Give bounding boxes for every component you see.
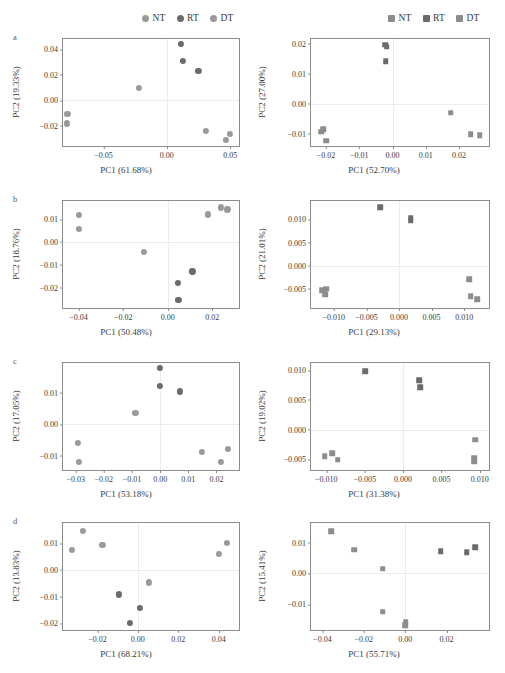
- data-point-rt: [363, 369, 369, 375]
- y-axis-tick: 0.01: [292, 69, 311, 78]
- y-axis-tick: −0.02: [39, 283, 63, 292]
- x-axis-tick: 0.01: [181, 470, 195, 484]
- y-axis-tick: 0.02: [44, 70, 63, 79]
- data-point-nt: [76, 212, 82, 218]
- gridline-horizontal: [311, 573, 489, 574]
- gridline-vertical: [399, 201, 400, 308]
- data-point-nt: [321, 127, 327, 133]
- data-point-rt: [195, 67, 201, 73]
- x-axis-tick: −0.02: [355, 630, 374, 644]
- data-point-dt: [227, 130, 233, 136]
- x-axis-tick: 0.010: [455, 308, 473, 322]
- data-point-rt: [383, 59, 389, 65]
- x-axis-label: PC1 (55.71%): [248, 649, 500, 659]
- x-axis-tick: 0.01: [419, 146, 433, 160]
- data-point-dt: [223, 137, 229, 143]
- data-point-nt: [323, 138, 329, 144]
- gridline-vertical: [160, 363, 161, 470]
- legend-item-nt: NT: [142, 14, 166, 24]
- gridline-vertical: [405, 523, 406, 630]
- data-point-rt: [178, 41, 184, 47]
- x-axis-tick: 0.00: [131, 630, 145, 644]
- x-axis-tick: −0.04: [313, 630, 332, 644]
- x-axis-tick: 0.02: [440, 630, 454, 644]
- legend-squares: NTRTDT: [388, 14, 480, 24]
- pca-panel-c-right: −0.0050.0000.0050.010−0.010−0.0050.0000.…: [252, 352, 504, 512]
- y-axis-tick: 0.04: [44, 45, 63, 54]
- legend-label: RT: [187, 14, 199, 24]
- x-axis-tick: 0.005: [423, 308, 441, 322]
- data-point-dt: [199, 449, 205, 455]
- data-point-rt: [175, 297, 181, 303]
- x-axis-tick: −0.02: [88, 630, 107, 644]
- gridline-vertical: [167, 39, 168, 146]
- y-axis-tick: 0.000: [288, 261, 311, 270]
- data-point-nt: [323, 291, 329, 297]
- legend-label: NT: [153, 14, 166, 24]
- x-axis-tick: 0.02: [171, 630, 185, 644]
- data-point-dt: [474, 296, 480, 302]
- data-point-rt: [417, 385, 423, 391]
- data-point-rt: [177, 388, 183, 394]
- y-axis-tick: 0.000: [288, 425, 311, 434]
- y-axis-label: PC2 (19.02%): [257, 390, 267, 442]
- data-point-nt: [335, 457, 341, 463]
- data-point-rt: [116, 591, 122, 597]
- plot-area: −0.010.000.01−0.03−0.02−0.010.000.010.02: [62, 362, 240, 471]
- x-axis-tick: 0.02: [209, 470, 223, 484]
- y-axis-tick: 0.01: [44, 215, 63, 224]
- y-axis-tick: −0.01: [287, 129, 311, 138]
- gridline-vertical: [393, 39, 394, 146]
- circle-marker: [142, 15, 149, 22]
- y-axis-tick: 0.00: [44, 420, 63, 429]
- legend-item-dt: DT: [456, 14, 480, 24]
- data-point-dt: [218, 458, 224, 464]
- gridline-vertical: [403, 363, 404, 470]
- circle-marker: [177, 15, 184, 22]
- y-axis-tick: 0.010: [288, 215, 311, 224]
- gridline-horizontal: [311, 430, 489, 431]
- pca-panel-d-right: −0.010.000.01−0.04−0.020.000.02PC1 (55.7…: [252, 512, 504, 672]
- data-point-dt: [477, 133, 483, 139]
- data-point-dt: [468, 131, 474, 137]
- y-axis-tick: −0.01: [39, 592, 63, 601]
- plot-area: −0.010.000.010.02−0.02−0.010.000.010.02: [310, 38, 490, 147]
- y-axis-label: PC2 (15.41%): [257, 550, 267, 602]
- x-axis-tick: −0.01: [123, 470, 142, 484]
- data-point-nt: [69, 547, 75, 553]
- data-point-nt: [136, 85, 142, 91]
- data-point-rt: [175, 279, 181, 285]
- x-axis-tick: −0.04: [69, 308, 88, 322]
- y-axis-tick: 0.01: [44, 539, 63, 548]
- data-point-nt: [76, 226, 82, 232]
- y-axis-label: PC2 (13.83%): [11, 550, 21, 602]
- y-axis-tick: 0.00: [44, 237, 63, 246]
- x-axis-tick: 0.02: [452, 146, 466, 160]
- x-axis-label: PC1 (68.21%): [0, 649, 252, 659]
- data-point-rt: [189, 268, 195, 274]
- y-axis-tick: −0.005: [283, 284, 311, 293]
- x-axis-tick: 0.00: [398, 630, 412, 644]
- data-point-rt: [438, 549, 444, 555]
- data-point-dt: [468, 293, 474, 299]
- gridline-horizontal: [63, 100, 239, 101]
- pca-panel-b-right: −0.0050.0000.0050.010−0.010−0.0050.0000.…: [252, 190, 504, 350]
- data-point-nt: [380, 566, 386, 572]
- y-axis-tick: 0.00: [292, 569, 311, 578]
- panel-letter-d: d: [13, 516, 17, 526]
- plot-area: −0.010.000.01−0.04−0.020.000.02: [310, 522, 490, 631]
- y-axis-tick: −0.005: [283, 455, 311, 464]
- data-point-dt: [146, 579, 152, 585]
- data-point-nt: [322, 454, 328, 460]
- gridline-horizontal: [63, 242, 239, 243]
- data-point-dt: [448, 110, 454, 116]
- data-point-dt: [467, 277, 473, 283]
- x-axis-tick: 0.05: [223, 146, 237, 160]
- y-axis-label: PC2 (17.05%): [11, 390, 21, 442]
- data-point-nt: [330, 451, 336, 457]
- legend-label: RT: [433, 14, 445, 24]
- gridline-vertical: [138, 523, 139, 630]
- data-point-dt: [402, 623, 408, 629]
- x-axis-tick: 0.02: [205, 308, 219, 322]
- plot-area: −0.02−0.010.000.01−0.020.000.020.04: [62, 522, 240, 631]
